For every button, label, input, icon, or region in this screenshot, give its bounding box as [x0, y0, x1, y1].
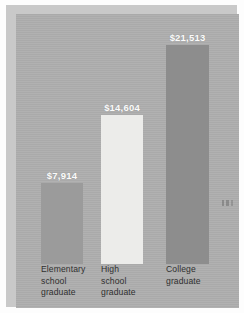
- category-label-elementary-school-graduate: Elementary school graduate: [41, 264, 101, 299]
- bar-high-school-graduate: $14,604: [101, 115, 143, 264]
- scan-speck-artifact: [222, 200, 233, 206]
- bar-value-label-0: $7,914: [47, 170, 77, 181]
- category-label-college-graduate: College graduate: [166, 264, 228, 287]
- bar-college-graduate: $21,513: [166, 45, 209, 264]
- category-label-high-school-graduate: High school graduate: [101, 264, 159, 299]
- bar-elementary-school-graduate: $7,914: [41, 183, 83, 264]
- chart-frame: $7,914 $14,604 $21,513 Elementary school…: [6, 5, 237, 307]
- bar-rect-2: [166, 45, 209, 264]
- plot-panel: $7,914 $14,604 $21,513 Elementary school…: [16, 14, 239, 308]
- bar-chart-figure: $7,914 $14,604 $21,513 Elementary school…: [0, 0, 244, 313]
- bar-rect-0: [41, 183, 83, 264]
- bar-value-label-1: $14,604: [104, 102, 140, 113]
- bar-rect-1: [101, 115, 143, 264]
- bar-value-label-2: $21,513: [170, 32, 206, 43]
